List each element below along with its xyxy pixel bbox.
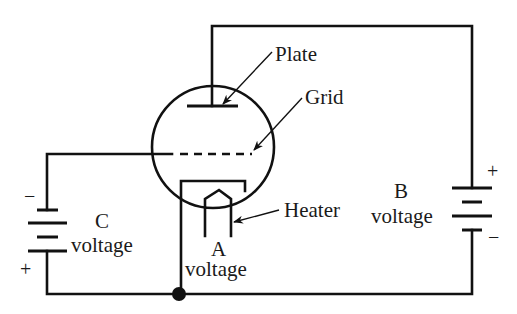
heater-filament <box>205 190 231 236</box>
heater-label: Heater <box>284 198 340 222</box>
a-voltage-label: voltage <box>185 257 247 281</box>
plate-label: Plate <box>275 42 317 66</box>
c-minus-sign: − <box>24 185 35 207</box>
c-plus-sign: + <box>20 258 31 280</box>
b-plus-sign: + <box>487 160 498 182</box>
grid-label: Grid <box>305 85 344 109</box>
c-voltage-label: voltage <box>71 233 133 257</box>
c-battery-symbol <box>28 210 67 251</box>
b-battery-symbol <box>452 188 492 230</box>
ground-junction-dot <box>172 287 186 301</box>
b-voltage-label: voltage <box>371 204 433 228</box>
triode-circuit-diagram: Plate Grid Heater C voltage − + A voltag… <box>0 0 517 314</box>
b-voltage-letter: B <box>394 179 408 203</box>
b-minus-sign: − <box>488 226 499 248</box>
grid-leader-arrow <box>254 98 302 150</box>
c-voltage-letter: C <box>95 209 109 233</box>
heater-leader-arrow <box>234 210 279 222</box>
